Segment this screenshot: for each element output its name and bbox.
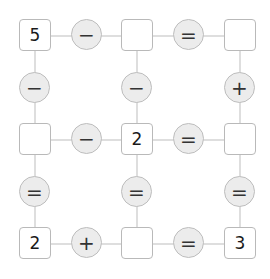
equals-operator: = <box>173 123 204 154</box>
cell-r0-c1[interactable] <box>121 19 153 51</box>
cell-r2-c1[interactable] <box>121 227 153 259</box>
minus-operator: − <box>71 19 102 50</box>
equals-operator: = <box>173 227 204 258</box>
equals-operator: = <box>173 19 204 50</box>
minus-operator: − <box>19 72 50 103</box>
cell-r1-c0[interactable] <box>19 123 51 155</box>
math-grid-puzzle: 5 − = − − + − 2 = = = = 2 + = 3 <box>0 0 270 279</box>
equals-operator: = <box>224 176 255 207</box>
plus-operator: + <box>71 227 102 258</box>
cell-r2-c2[interactable]: 3 <box>224 227 256 259</box>
cell-r0-c0[interactable]: 5 <box>19 19 51 51</box>
minus-operator: − <box>121 72 152 103</box>
cell-r1-c1[interactable]: 2 <box>121 123 153 155</box>
cell-r1-c2[interactable] <box>224 123 256 155</box>
cell-r2-c0[interactable]: 2 <box>19 227 51 259</box>
equals-operator: = <box>121 176 152 207</box>
equals-operator: = <box>19 176 50 207</box>
cell-r0-c2[interactable] <box>224 19 256 51</box>
plus-operator: + <box>224 72 255 103</box>
minus-operator: − <box>71 123 102 154</box>
